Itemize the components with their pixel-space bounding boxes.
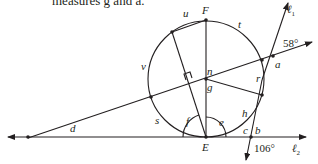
point-r: [260, 93, 264, 97]
arc-label-t: t: [238, 18, 242, 30]
angle-label-a: a: [275, 58, 281, 70]
point-b: [249, 135, 253, 139]
point-label-E: E: [201, 141, 209, 153]
geometry-figure: measures g and a.: [0, 0, 318, 164]
given-angle-106: 106°: [254, 142, 275, 154]
segment-g-r: [206, 79, 262, 95]
angle-label-b: b: [255, 124, 261, 136]
arc-label-r: r: [256, 72, 261, 84]
chord-u: [172, 20, 206, 32]
arc-label-h: h: [242, 107, 248, 119]
right-angle-marker: [184, 72, 192, 80]
point-label-F: F: [201, 4, 209, 16]
circle-diagram: u F t v n g r a 58° ℓ1 s f e h c b 106° …: [0, 0, 318, 164]
angle-label-n: n: [207, 65, 213, 77]
point-F: [204, 18, 208, 22]
given-angle-58: 58°: [283, 37, 298, 49]
angle-label-g: g: [207, 81, 213, 93]
angle-label-f: f: [186, 115, 191, 127]
arc-label-u: u: [183, 7, 189, 19]
angle-label-c: c: [243, 124, 248, 136]
angle-label-d: d: [70, 122, 76, 134]
point-d: [26, 135, 30, 139]
point-upper-left: [170, 30, 174, 34]
line-label-l2: ℓ2: [292, 142, 301, 157]
line-label-l1: ℓ1: [287, 3, 296, 18]
arc-label-v: v: [141, 60, 146, 72]
point-right-secant: [260, 58, 264, 62]
point-left-secant: [149, 95, 153, 99]
arc-label-s: s: [155, 114, 159, 126]
angle-label-e: e: [219, 116, 224, 128]
point-E: [204, 135, 208, 139]
